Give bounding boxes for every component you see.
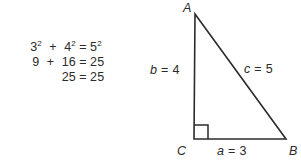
term-exponent: 2 xyxy=(97,39,102,48)
side-variable: c xyxy=(244,62,251,76)
equation-row: 25 = 25 xyxy=(8,70,112,85)
triangle-diagram: A B C b = 4 c = 5 a = 3 xyxy=(150,0,301,163)
pythagorean-theorem-figure: 32 + 42 = 52 9 + 16 = 25 25 = 25 A B C b… xyxy=(0,0,301,163)
equation-lhs: 9 + 16 xyxy=(20,55,76,69)
equals-sign: = xyxy=(76,40,90,54)
side-variable: b xyxy=(150,63,157,77)
equals-sign: = xyxy=(76,70,90,84)
equation-rhs: 25 xyxy=(90,70,112,84)
equation-rhs: 25 xyxy=(90,55,112,69)
equation-row: 32 + 42 = 52 xyxy=(8,40,112,55)
operator: + xyxy=(47,55,55,69)
equation-row: 9 + 16 = 25 xyxy=(8,55,112,70)
equation-rhs: 52 xyxy=(90,40,112,54)
vertex-label-b: B xyxy=(289,144,297,158)
side-label-c: c = 5 xyxy=(244,62,273,76)
equation-lhs: 25 xyxy=(20,70,76,84)
term-value: 25 xyxy=(62,70,76,84)
side-value: 4 xyxy=(172,63,179,77)
side-label-a: a = 3 xyxy=(217,144,247,158)
equals-sign: = xyxy=(228,144,236,158)
side-value: 3 xyxy=(239,144,246,158)
vertex-label-c: C xyxy=(177,144,186,158)
side-variable: a xyxy=(217,144,224,158)
right-angle-icon xyxy=(194,125,208,139)
vertex-label-a: A xyxy=(183,1,191,15)
equation-lhs: 32 + 42 xyxy=(20,40,76,54)
term-exponent: 2 xyxy=(37,39,42,48)
equals-sign: = xyxy=(76,55,90,69)
equals-sign: = xyxy=(254,62,262,76)
equation-block: 32 + 42 = 52 9 + 16 = 25 25 = 25 xyxy=(8,40,112,85)
equals-sign: = xyxy=(161,63,169,77)
triangle-shape xyxy=(150,0,301,163)
side-value: 5 xyxy=(266,62,273,76)
triangle-outline xyxy=(194,14,286,139)
operator: + xyxy=(49,40,57,54)
term-value: 9 xyxy=(32,55,39,69)
term-value: 16 xyxy=(62,55,76,69)
side-label-b: b = 4 xyxy=(150,63,180,77)
